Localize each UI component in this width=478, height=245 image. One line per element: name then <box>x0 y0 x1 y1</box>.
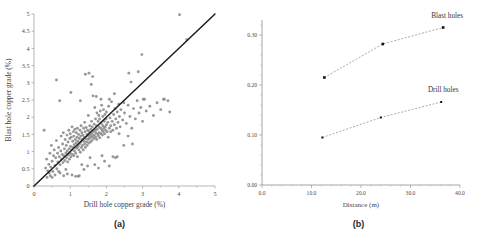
x-tick-label: 40.0 <box>455 190 465 196</box>
x-tick-label: 4 <box>177 190 180 197</box>
svg-text:0.5: 0.5 <box>22 165 30 172</box>
x-axis-title: Distance (m) <box>343 201 380 209</box>
svg-text:3.5: 3.5 <box>22 62 30 69</box>
svg-text:4: 4 <box>177 190 180 197</box>
scatter-points <box>43 13 189 179</box>
x-tick-label: 2 <box>105 190 108 197</box>
svg-text:5: 5 <box>213 190 216 197</box>
svg-text:0: 0 <box>32 190 35 197</box>
svg-text:1: 1 <box>69 190 72 197</box>
x-tick-label: 10.0 <box>307 190 317 196</box>
svg-text:40.0: 40.0 <box>455 190 465 196</box>
svg-text:0.20: 0.20 <box>247 82 257 88</box>
y-tick-label: 0.20 <box>247 82 257 88</box>
y-tick-label: 0.30 <box>247 32 257 38</box>
svg-text:Distance (m): Distance (m) <box>343 201 380 209</box>
svg-text:3: 3 <box>26 79 29 86</box>
svg-text:Blast holes: Blast holes <box>431 12 463 20</box>
svg-text:1: 1 <box>26 148 29 155</box>
y-tick-label: 0.10 <box>247 132 257 138</box>
y-tick-label: 1 <box>26 148 29 155</box>
svg-text:Drill holes: Drill holes <box>428 86 459 94</box>
series-label-drill-holes: Drill holes <box>428 86 459 94</box>
x-tick-label: 1 <box>69 190 72 197</box>
svg-text:2: 2 <box>26 113 29 120</box>
svg-text:0.0: 0.0 <box>259 190 266 196</box>
svg-text:20.0: 20.0 <box>356 190 366 196</box>
variogram-series-drill-holes <box>321 101 442 139</box>
x-axis-title: Drill hole copper grade (%) <box>84 200 166 209</box>
svg-text:5: 5 <box>26 10 29 17</box>
x-tick-label: 0 <box>32 190 35 197</box>
svg-text:2: 2 <box>105 190 108 197</box>
y-tick-label: 2 <box>26 113 29 120</box>
x-tick-label: 30.0 <box>406 190 416 196</box>
figure-container: 01234500.511.522.533.544.55Drill hole co… <box>0 0 478 245</box>
y-tick-label: 3 <box>26 79 29 86</box>
y-tick-label: 5 <box>26 10 29 17</box>
svg-text:1.5: 1.5 <box>22 131 30 138</box>
svg-text:2.5: 2.5 <box>22 96 30 103</box>
y-tick-label: 4 <box>26 45 29 52</box>
x-tick-label: 20.0 <box>356 190 366 196</box>
y-tick-label: 0 <box>26 182 29 189</box>
panel-b-variogram: 0.010.020.030.040.00.000.100.200.30Blast… <box>239 0 478 245</box>
svg-text:0: 0 <box>26 182 29 189</box>
y-tick-label: 0.00 <box>247 182 257 188</box>
x-tick-label: 0.0 <box>259 190 266 196</box>
svg-text:Drill hole copper grade (%): Drill hole copper grade (%) <box>84 200 166 209</box>
y-tick-label: 2.5 <box>22 96 30 103</box>
panel-b-caption: (b) <box>239 219 478 229</box>
svg-text:3: 3 <box>141 190 144 197</box>
svg-text:0.00: 0.00 <box>247 182 257 188</box>
svg-text:4.5: 4.5 <box>22 27 30 34</box>
variogram-series-blast-holes <box>323 26 444 79</box>
y-tick-label: 1.5 <box>22 131 30 138</box>
reference-line-1to1 <box>34 14 215 186</box>
variogram-plot: 0.010.020.030.040.00.000.100.200.30Blast… <box>239 0 478 215</box>
svg-text:4: 4 <box>26 45 29 52</box>
y-axis-title: Blast hole copper grade (%) <box>4 58 13 141</box>
y-tick-label: 3.5 <box>22 62 30 69</box>
y-tick-label: 0.5 <box>22 165 30 172</box>
svg-text:Blast hole copper grade (%): Blast hole copper grade (%) <box>4 58 13 141</box>
scatter-plot: 01234500.511.522.533.544.55Drill hole co… <box>0 0 239 215</box>
panel-a-caption: (a) <box>0 219 239 229</box>
svg-text:0.30: 0.30 <box>247 32 257 38</box>
svg-text:0.10: 0.10 <box>247 132 257 138</box>
svg-text:30.0: 30.0 <box>406 190 416 196</box>
svg-text:10.0: 10.0 <box>307 190 317 196</box>
panel-a-scatter: 01234500.511.522.533.544.55Drill hole co… <box>0 0 239 245</box>
y-tick-label: 4.5 <box>22 27 30 34</box>
x-tick-label: 3 <box>141 190 144 197</box>
series-label-blast-holes: Blast holes <box>431 12 463 20</box>
x-tick-label: 5 <box>213 190 216 197</box>
